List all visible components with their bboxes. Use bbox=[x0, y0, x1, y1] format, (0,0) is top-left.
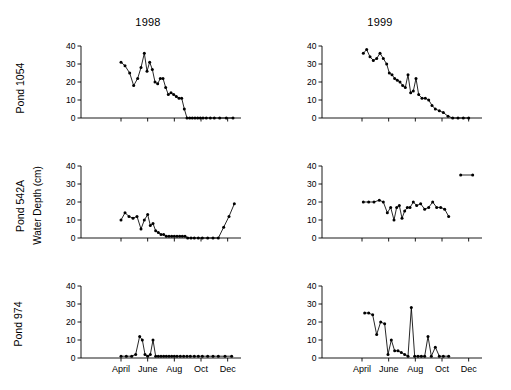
panel-pond1054-1998: 010203040 bbox=[55, 40, 249, 136]
svg-text:20: 20 bbox=[66, 317, 76, 327]
svg-text:10: 10 bbox=[307, 335, 317, 345]
row-label-pond-1054: Pond 1054 bbox=[14, 48, 26, 128]
svg-text:April: April bbox=[112, 364, 130, 374]
panel-pond542a-1998: 010203040 bbox=[55, 160, 249, 256]
svg-text:Dec: Dec bbox=[461, 364, 478, 374]
svg-text:June: June bbox=[379, 364, 399, 374]
panel-pond542a-1999: 010203040 bbox=[296, 160, 490, 256]
svg-text:40: 40 bbox=[66, 281, 76, 291]
panel-pond974-1998: 010203040AprilJuneAugOctDec bbox=[55, 280, 249, 376]
svg-text:30: 30 bbox=[66, 299, 76, 309]
svg-text:20: 20 bbox=[307, 317, 317, 327]
row-label-pond-542a: Pond 542A bbox=[14, 166, 26, 246]
svg-text:20: 20 bbox=[307, 77, 317, 87]
svg-text:10: 10 bbox=[307, 215, 317, 225]
svg-text:0: 0 bbox=[312, 353, 317, 363]
panel-pond974-1999: 010203040AprilJuneAugOctDec bbox=[296, 280, 490, 376]
svg-text:Dec: Dec bbox=[220, 364, 237, 374]
svg-text:Oct: Oct bbox=[435, 364, 450, 374]
svg-text:10: 10 bbox=[307, 95, 317, 105]
svg-text:30: 30 bbox=[66, 59, 76, 69]
figure-panel-grid: 1998 1999 Pond 1054 Pond 542A Pond 974 W… bbox=[0, 0, 511, 390]
svg-text:0: 0 bbox=[71, 233, 76, 243]
svg-text:0: 0 bbox=[312, 233, 317, 243]
column-title-1999: 1999 bbox=[340, 16, 420, 28]
row-label-pond-974: Pond 974 bbox=[12, 284, 24, 364]
svg-text:0: 0 bbox=[71, 353, 76, 363]
svg-text:0: 0 bbox=[312, 113, 317, 123]
svg-text:40: 40 bbox=[66, 161, 76, 171]
svg-text:Aug: Aug bbox=[166, 364, 182, 374]
svg-text:20: 20 bbox=[307, 197, 317, 207]
y-axis-label: Water Depth (cm) bbox=[32, 146, 43, 266]
svg-text:Aug: Aug bbox=[407, 364, 423, 374]
svg-text:40: 40 bbox=[307, 41, 317, 51]
svg-text:20: 20 bbox=[66, 77, 76, 87]
svg-text:April: April bbox=[353, 364, 371, 374]
svg-text:40: 40 bbox=[307, 161, 317, 171]
svg-text:40: 40 bbox=[307, 281, 317, 291]
svg-text:30: 30 bbox=[307, 59, 317, 69]
svg-text:10: 10 bbox=[66, 95, 76, 105]
svg-text:Oct: Oct bbox=[194, 364, 209, 374]
svg-text:30: 30 bbox=[307, 179, 317, 189]
column-title-1998: 1998 bbox=[108, 16, 188, 28]
svg-text:June: June bbox=[138, 364, 158, 374]
panel-pond1054-1999: 010203040 bbox=[296, 40, 490, 136]
svg-text:10: 10 bbox=[66, 215, 76, 225]
svg-text:40: 40 bbox=[66, 41, 76, 51]
svg-text:30: 30 bbox=[66, 179, 76, 189]
svg-text:0: 0 bbox=[71, 113, 76, 123]
svg-text:10: 10 bbox=[66, 335, 76, 345]
svg-text:30: 30 bbox=[307, 299, 317, 309]
svg-text:20: 20 bbox=[66, 197, 76, 207]
